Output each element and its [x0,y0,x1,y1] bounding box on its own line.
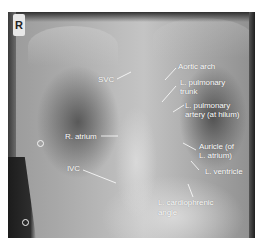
label-r-atrium: R. atrium [65,132,97,141]
left-shoulder-region [153,18,253,58]
label-l-pulmonary-artery-line2: artery (at hilum) [185,110,239,119]
xray-right-edge [249,12,255,238]
label-l-pulmonary-trunk-line1: L. pulmonary [180,78,225,87]
label-l-cardiophrenic-line1: L. cardiophrenic [158,198,213,207]
label-auricle-line1: Auricle (of [199,142,234,151]
label-svc: SVC [98,75,114,84]
label-auricle-line2: L. atrium) [199,151,232,160]
label-aortic-arch: Aortic arch [178,62,215,71]
label-l-pulmonary-artery-line1: L. pulmonary [185,101,230,110]
lower-left-dark-region [8,157,36,238]
label-ivc: IVC [67,164,80,173]
skin-marker-dot-lower [22,219,29,226]
side-marker: R [13,14,25,36]
skin-marker-dot-upper [37,140,44,147]
label-l-pulmonary-trunk-line2: trunk [180,87,197,96]
xray-top-edge [8,12,255,22]
chest-xray-image: R [8,12,255,238]
label-l-cardiophrenic-line2: angle [158,208,177,217]
label-l-ventricle: L. ventricle [205,167,242,176]
right-shoulder-region [28,26,118,66]
